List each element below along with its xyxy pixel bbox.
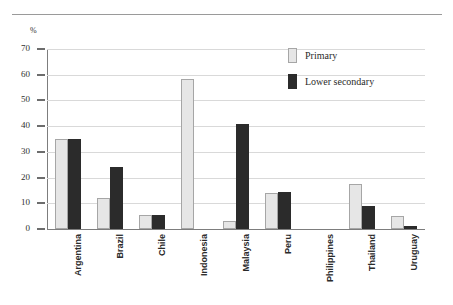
- caption-fragment: [36, 0, 296, 7]
- x-category-label: Malaysia: [241, 234, 251, 304]
- y-tick-label: 10: [8, 198, 30, 207]
- bar-lower-secondary: [404, 226, 417, 229]
- x-category-label: Philippines: [325, 234, 335, 304]
- y-tick-mark: [37, 202, 45, 204]
- bar-primary: [55, 139, 68, 229]
- bar-primary: [139, 215, 152, 229]
- legend-swatch-primary-icon: [288, 48, 297, 63]
- chart-legend: Primary Lower secondary: [288, 42, 374, 94]
- x-category-label: Uruguay: [409, 234, 419, 304]
- x-category-label: Brazil: [115, 234, 125, 304]
- bar-primary: [223, 221, 236, 229]
- bar-group: [223, 49, 249, 229]
- y-tick-mark: [37, 99, 45, 101]
- bar-group: [55, 49, 81, 229]
- y-tick-label: 60: [8, 70, 30, 79]
- bar-primary: [181, 79, 194, 229]
- y-axis-unit-label: %: [30, 26, 37, 35]
- bar-lower-secondary: [110, 167, 123, 229]
- chart-figure: % 010203040506070 ArgentinaBrazilChileIn…: [0, 0, 453, 305]
- y-tick-label: 40: [8, 121, 30, 130]
- y-tick-mark: [37, 74, 45, 76]
- legend-label-primary: Primary: [305, 50, 337, 61]
- x-category-label: Indonesia: [199, 234, 209, 304]
- x-category-label: Chile: [157, 234, 167, 304]
- bar-group: [139, 49, 165, 229]
- legend-item-lower-secondary: Lower secondary: [288, 68, 374, 94]
- bar-group: [97, 49, 123, 229]
- x-category-label: Argentina: [73, 234, 83, 304]
- bar-lower-secondary: [152, 215, 165, 229]
- bar-lower-secondary: [278, 192, 291, 229]
- bar-primary: [391, 216, 404, 229]
- y-tick-label: 20: [8, 173, 30, 182]
- bar-primary: [97, 198, 110, 229]
- bar-primary: [265, 193, 278, 229]
- y-tick-mark: [37, 125, 45, 127]
- bar-primary: [349, 184, 362, 229]
- top-divider-rule: [12, 14, 442, 15]
- bar-lower-secondary: [68, 139, 81, 229]
- y-tick-mark: [37, 151, 45, 153]
- x-category-label: Thailand: [367, 234, 377, 304]
- y-tick-mark: [37, 177, 45, 179]
- y-tick-label: 30: [8, 147, 30, 156]
- legend-label-lower-secondary: Lower secondary: [305, 76, 374, 87]
- bar-group: [181, 49, 207, 229]
- y-tick-label: 70: [8, 44, 30, 53]
- y-tick-mark: [37, 228, 45, 230]
- y-tick-label: 0: [8, 224, 30, 233]
- y-tick-mark: [37, 48, 45, 50]
- x-category-label: Peru: [283, 234, 293, 304]
- legend-item-primary: Primary: [288, 42, 374, 68]
- bar-lower-secondary: [362, 206, 375, 229]
- bar-group: [391, 49, 417, 229]
- legend-swatch-lower-secondary-icon: [288, 74, 297, 89]
- bar-lower-secondary: [236, 124, 249, 229]
- gridline: [47, 229, 425, 230]
- y-tick-label: 50: [8, 95, 30, 104]
